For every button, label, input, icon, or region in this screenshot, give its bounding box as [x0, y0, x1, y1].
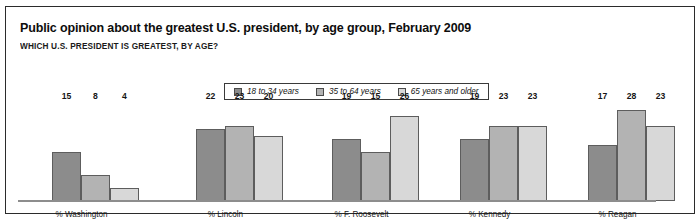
bar: 15	[52, 152, 81, 201]
bar-value-label: 22	[196, 92, 225, 101]
page-title: Public opinion about the greatest U.S. p…	[20, 21, 471, 35]
bar-group: 191526	[332, 103, 419, 201]
bar-value-label: 23	[518, 92, 547, 101]
bar-column: 23	[225, 103, 254, 201]
category-label: % Reagan	[554, 209, 681, 219]
bar: 20	[254, 136, 283, 201]
bar-column: 19	[460, 103, 489, 201]
bar-value-label: 23	[225, 92, 254, 101]
bar-column: 4	[110, 103, 139, 201]
chart-subtitle: WHICH U.S. PRESIDENT IS GREATEST, BY AGE…	[20, 41, 218, 51]
bar-value-label: 26	[390, 92, 419, 101]
bar-column: 23	[646, 103, 675, 201]
bar-group: 192323	[460, 103, 547, 201]
category-label: % Washington	[18, 209, 145, 219]
legend-swatch-icon	[316, 88, 324, 96]
chart-frame: Public opinion about the greatest U.S. p…	[5, 6, 695, 214]
bar-value-label: 19	[332, 92, 361, 101]
bar-value-label: 28	[617, 92, 646, 101]
bar-column: 17	[588, 103, 617, 201]
bar: 26	[390, 116, 419, 201]
bar-group: 1584	[52, 103, 139, 201]
bar: 15	[361, 152, 390, 201]
bar-column: 28	[617, 103, 646, 201]
bar: 22	[196, 129, 225, 201]
bar-column: 15	[52, 103, 81, 201]
bar-value-label: 20	[254, 92, 283, 101]
bar: 17	[588, 145, 617, 201]
bar-column: 19	[332, 103, 361, 201]
bar-value-label: 15	[52, 92, 81, 101]
bar-column: 20	[254, 103, 283, 201]
bar-chart-plot: 1584222320191526192323172823	[20, 103, 694, 201]
category-label: % F. Roosevelt	[298, 209, 425, 219]
bar-group: 222320	[196, 103, 283, 201]
bar-value-label: 8	[81, 92, 110, 101]
bar-value-label: 23	[646, 92, 675, 101]
bar: 23	[646, 126, 675, 201]
bar: 19	[460, 139, 489, 201]
bar-column: 15	[361, 103, 390, 201]
bar-value-label: 19	[460, 92, 489, 101]
bar: 8	[81, 175, 110, 201]
bar-group: 172823	[588, 103, 675, 201]
bar-column: 23	[518, 103, 547, 201]
bar-column: 23	[489, 103, 518, 201]
bar-column: 26	[390, 103, 419, 201]
bar-value-label: 17	[588, 92, 617, 101]
bar-column: 22	[196, 103, 225, 201]
bar-value-label: 23	[489, 92, 518, 101]
bar: 28	[617, 110, 646, 201]
bar-value-label: 15	[361, 92, 390, 101]
category-label: % Kennedy	[426, 209, 553, 219]
axis-baseline	[18, 200, 656, 202]
bar-value-label: 4	[110, 92, 139, 101]
bar: 23	[225, 126, 254, 201]
bar: 23	[489, 126, 518, 201]
category-label: % Lincoln	[162, 209, 289, 219]
bar-column: 8	[81, 103, 110, 201]
bar: 19	[332, 139, 361, 201]
bar: 23	[518, 126, 547, 201]
